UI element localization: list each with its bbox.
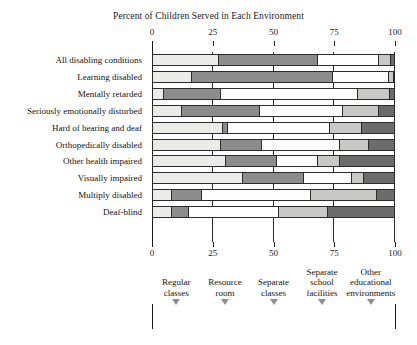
legend-pointer-arrow-icon: [318, 299, 326, 305]
bar-segment: [333, 72, 389, 82]
legend-item-label-line: Separate: [258, 277, 289, 288]
legend-item-label-line: facilities: [307, 288, 338, 299]
legend-item-label: Othereducationalenvironments: [346, 267, 395, 299]
x-tick-mark-75: [334, 41, 335, 46]
legend-item-label-line: Resource: [208, 277, 242, 288]
bar-segment: [221, 89, 358, 99]
bar-segment: [182, 106, 260, 116]
bar-segment: [340, 156, 395, 166]
legend-item-label: Separateclasses: [258, 277, 289, 298]
bar-segment: [364, 173, 395, 183]
category-label: All disabling conditions: [0, 55, 147, 65]
bar-segment: [330, 123, 362, 133]
bar-segment: [391, 55, 395, 65]
bar-row: [152, 71, 395, 83]
bar-segment: [221, 140, 262, 150]
bar-segment: [260, 106, 343, 116]
legend-endcap-right: [395, 304, 396, 329]
legend-item-label-line: Regular: [162, 277, 191, 288]
legend-pointer-arrow-icon: [172, 299, 180, 305]
bar-row: [152, 54, 395, 66]
x-tick-mark-50: [274, 242, 275, 247]
bar-segment: [172, 190, 201, 200]
x-tick-mark-75: [334, 242, 335, 247]
bar-segment: [304, 173, 353, 183]
category-label: Mentally retarded: [0, 89, 147, 99]
x-tick-mark-100: [395, 242, 396, 247]
legend: Legend RegularclassesResourceroomSeparat…: [0, 264, 417, 345]
bar-segment: [394, 72, 395, 82]
bar-segment: [153, 72, 192, 82]
bar-segment: [369, 140, 395, 150]
category-label: Multiply disabled: [0, 190, 147, 200]
x-tick-mark-25: [213, 242, 214, 247]
legend-item-label-line: classes: [162, 288, 191, 299]
legend-pointer-arrow-icon: [270, 299, 278, 305]
category-label: Deaf-blind: [0, 207, 147, 217]
bar-row: [152, 155, 395, 167]
bar-row: [152, 88, 395, 100]
bar-row: [152, 172, 395, 184]
x-tick-mark-100: [395, 41, 396, 46]
bar-segment: [262, 140, 340, 150]
x-axis-tick-labels-top: 0255075100: [152, 27, 395, 39]
bar-segment: [362, 123, 395, 133]
bar-segment: [153, 55, 219, 65]
legend-item-label-line: Other: [346, 267, 395, 278]
bar-row: [152, 206, 395, 218]
x-tick-label-25: 25: [208, 27, 217, 37]
bar-row: [152, 105, 395, 117]
bar-segment: [379, 55, 391, 65]
legend-item-label-line: Separate: [307, 267, 338, 278]
bar-segment: [328, 207, 395, 217]
bar-row: [152, 139, 395, 151]
bar-row: [152, 189, 395, 201]
bar-segment: [340, 140, 369, 150]
legend-item-label-line: school: [307, 277, 338, 288]
x-tick-label-50: 50: [269, 27, 278, 37]
bar-segment: [153, 140, 221, 150]
legend-item-label-line: educational: [346, 277, 395, 288]
legend-item-label: Separateschoolfacilities: [307, 267, 338, 299]
category-label: Hard of hearing and deaf: [0, 123, 147, 133]
x-tick-label-75: 75: [330, 248, 339, 258]
x-axis-ticks-top: [152, 41, 395, 46]
chart-title: Percent of Children Served in Each Envir…: [0, 11, 417, 21]
plot-area: [152, 52, 395, 242]
legend-endcap-left: [152, 304, 153, 329]
legend-item-label-line: room: [208, 288, 242, 299]
x-tick-mark-0: [152, 242, 153, 247]
x-tick-label-25: 25: [208, 248, 217, 258]
category-label: Seriously emotionally disturbed: [0, 106, 147, 116]
x-tick-label-50: 50: [269, 248, 278, 258]
bar-segment: [192, 72, 333, 82]
bar-segment: [318, 156, 340, 166]
category-label: Visually impaired: [0, 173, 147, 183]
category-label: Learning disabled: [0, 72, 147, 82]
bar-segment: [390, 89, 395, 99]
bar-row: [152, 122, 395, 134]
bar-segment: [153, 173, 243, 183]
bar-segment: [243, 173, 304, 183]
legend-item-label-line: environments: [346, 288, 395, 299]
bar-segment: [352, 173, 364, 183]
category-label: Other health impaired: [0, 156, 147, 166]
category-label: Orthopedically disabled: [0, 140, 147, 150]
x-axis-ticks-bottom: [152, 242, 395, 247]
bar-segment: [226, 156, 277, 166]
bar-segment: [153, 190, 172, 200]
x-tick-label-0: 0: [150, 248, 155, 258]
x-tick-mark-50: [274, 41, 275, 46]
bar-segment: [377, 190, 395, 200]
bar-segment: [277, 156, 318, 166]
x-tick-label-75: 75: [330, 27, 339, 37]
bar-segment: [189, 207, 279, 217]
bar-segment: [279, 207, 328, 217]
legend-pointer-arrow-icon: [221, 299, 229, 305]
bar-segment: [379, 106, 395, 116]
legend-item-label-line: classes: [258, 288, 289, 299]
bar-segment: [343, 106, 379, 116]
bar-segment: [358, 89, 390, 99]
x-tick-label-100: 100: [388, 248, 402, 258]
stacked-bar-chart: Percent of Children Served in Each Envir…: [0, 0, 417, 345]
